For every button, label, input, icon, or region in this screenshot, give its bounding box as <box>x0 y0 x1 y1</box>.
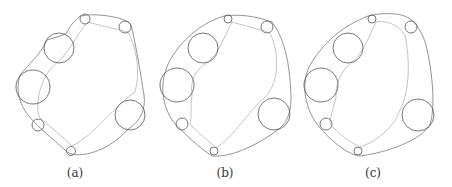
circle <box>405 21 417 33</box>
figure-canvas <box>0 0 452 187</box>
circle <box>368 15 376 23</box>
panel-c <box>304 14 434 156</box>
circle <box>402 99 434 131</box>
circle <box>304 68 338 102</box>
circle <box>261 21 273 33</box>
panel-b <box>160 15 291 156</box>
circles <box>304 15 434 155</box>
circle <box>333 33 363 63</box>
inner-contour <box>38 22 138 146</box>
circle <box>354 147 362 155</box>
panel-c-caption: (c) <box>365 166 381 180</box>
inner-contour <box>330 22 408 147</box>
outer-contour <box>305 14 433 156</box>
circle <box>115 100 145 130</box>
circle <box>16 70 50 104</box>
panel-a <box>16 14 145 156</box>
circle <box>210 147 218 155</box>
circle <box>176 118 188 130</box>
inner-contour <box>190 22 277 148</box>
circles <box>16 14 145 156</box>
circle <box>160 68 194 102</box>
outer-contour <box>18 15 144 155</box>
circle <box>224 15 232 23</box>
circle <box>32 119 44 131</box>
circle <box>258 98 290 130</box>
circle <box>188 33 218 63</box>
panel-b-caption: (b) <box>216 166 233 180</box>
panel-a-caption: (a) <box>67 166 84 180</box>
